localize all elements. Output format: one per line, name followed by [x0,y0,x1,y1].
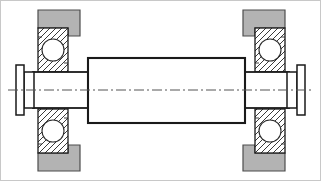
bearing-right-upper [255,28,285,72]
bearing-right-lower [255,109,285,153]
bearing-right-lower-ball [259,120,281,142]
bearing-left-lower-ball [42,120,64,142]
bearing-right-upper-ball [259,39,281,61]
assembly-section-svg [0,0,321,181]
bearing-left-upper-ball [42,39,64,61]
bearing-left-lower [38,109,68,153]
drawing-canvas: Engineering cross-section drawing of a c… [0,0,321,181]
bearing-left-upper [38,28,68,72]
